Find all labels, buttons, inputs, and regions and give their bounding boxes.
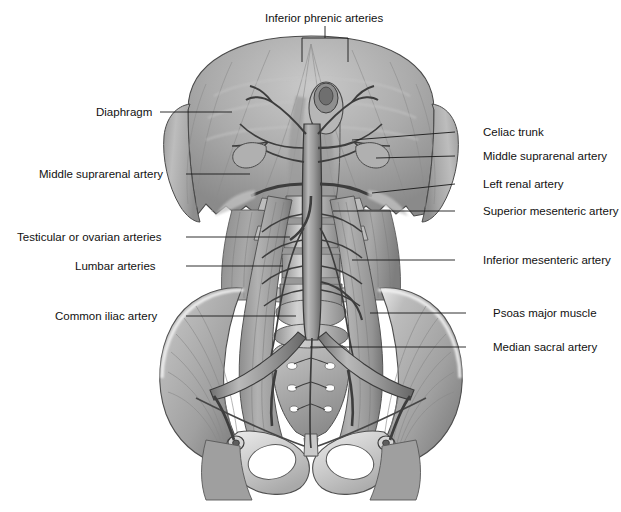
label-middle-suprarenal-artery-right: Middle suprarenal artery [483, 150, 607, 163]
labels-layer: Inferior phrenic arteries Diaphragm Midd… [0, 0, 621, 512]
label-psoas-major-muscle: Psoas major muscle [493, 307, 597, 320]
label-superior-mesenteric-artery: Superior mesenteric artery [483, 205, 619, 218]
label-median-sacral-artery: Median sacral artery [493, 341, 597, 354]
label-inferior-mesenteric-artery: Inferior mesenteric artery [483, 254, 611, 267]
label-left-renal-artery: Left renal artery [483, 178, 564, 191]
label-lumbar-arteries: Lumbar arteries [75, 260, 156, 273]
label-diaphragm: Diaphragm [96, 106, 152, 119]
label-celiac-trunk: Celiac trunk [483, 126, 544, 139]
label-testicular-or-ovarian-arteries: Testicular or ovarian arteries [17, 231, 161, 244]
label-inferior-phrenic-arteries: Inferior phrenic arteries [265, 12, 383, 25]
anatomy-figure: Inferior phrenic arteries Diaphragm Midd… [0, 0, 621, 512]
label-common-iliac-artery: Common iliac artery [55, 310, 157, 323]
label-middle-suprarenal-artery-left: Middle suprarenal artery [39, 168, 163, 181]
